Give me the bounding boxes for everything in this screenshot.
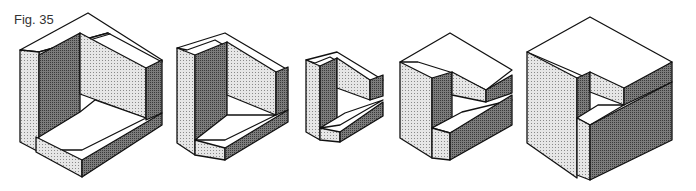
face-light	[400, 62, 432, 158]
face-dark	[450, 95, 512, 160]
face-light	[195, 140, 225, 160]
face-light	[177, 48, 195, 155]
face-light	[577, 118, 590, 180]
figure-2	[177, 33, 288, 160]
face-light	[432, 128, 450, 160]
figure-3	[306, 52, 383, 142]
face-dark	[276, 67, 288, 115]
isometric-blocks-diagram	[0, 0, 696, 191]
face-dark	[146, 60, 162, 120]
face-light	[320, 128, 340, 142]
face-dark	[370, 75, 383, 100]
face-light	[306, 60, 320, 140]
figure-1-full-corner	[20, 13, 162, 177]
face-dark	[320, 58, 337, 128]
figure-4	[400, 33, 512, 160]
figure-5	[527, 17, 672, 180]
